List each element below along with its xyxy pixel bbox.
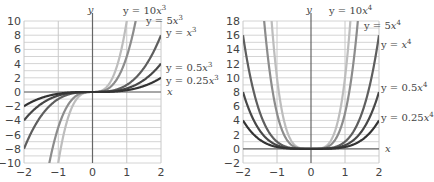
- x-tick-label: −2: [235, 166, 251, 179]
- x-tick-labels: −2−1012: [235, 166, 383, 179]
- chart-canvas: −10−8−6−4−20246810−2−1012xyy = 10x3y = 5…: [0, 0, 434, 182]
- x-tick-label: 1: [342, 166, 349, 179]
- y-tick-label: 4: [14, 58, 21, 71]
- x-axis-label: x: [167, 86, 173, 97]
- series-label: y = x3: [165, 26, 197, 38]
- x-tick-label: 2: [376, 166, 383, 179]
- y-tick-label: 8: [14, 29, 21, 42]
- y-tick-label: 6: [233, 100, 240, 113]
- y-tick-label: 10: [226, 72, 240, 85]
- series-label: y = 0.5x4: [380, 81, 428, 93]
- y-axis-label: y: [87, 4, 94, 15]
- x-tick-label: −1: [269, 166, 285, 179]
- x-axis-label: x: [385, 143, 391, 154]
- series-label: y = 0.5x3: [165, 61, 212, 73]
- x-tick-label: 1: [123, 166, 130, 179]
- series-label: y = 5x4: [363, 19, 401, 31]
- y-axis-label: y: [305, 4, 312, 15]
- y-tick-label: 2: [233, 129, 240, 142]
- series-labels: y = 10x3y = 5x3y = x3y = 0.5x3y = 0.25x3: [122, 4, 219, 86]
- y-tick-labels: −10−8−6−4−20246810: [0, 15, 21, 170]
- x-tick-label: −1: [50, 166, 66, 179]
- quartic-functions-plot: −2024681012141618−2−1012xyy = 10x4y = 5x…: [224, 0, 434, 179]
- y-tick-label: 4: [233, 114, 240, 127]
- y-tick-label: 8: [233, 86, 240, 99]
- cubic-functions-plot: −10−8−6−4−20246810−2−1012xyy = 10x3y = 5…: [0, 0, 219, 182]
- y-tick-label: 16: [226, 29, 240, 42]
- series-label: y = 5x3: [145, 14, 183, 26]
- y-tick-label: 18: [226, 15, 240, 28]
- y-tick-label: 0: [14, 86, 21, 99]
- x-tick-label: 2: [158, 166, 165, 179]
- y-tick-label: 2: [14, 72, 21, 85]
- y-tick-label: −4: [5, 114, 21, 127]
- series-label: y = 0.25x4: [380, 111, 434, 123]
- y-tick-label: −8: [5, 143, 21, 156]
- series-label: y = 0.25x3: [165, 74, 219, 86]
- y-tick-label: 0: [233, 143, 240, 156]
- x-tick-label: 0: [308, 166, 315, 179]
- y-tick-label: 14: [226, 43, 240, 56]
- x-tick-label: −2: [16, 166, 32, 179]
- y-tick-label: −6: [5, 129, 21, 142]
- series-label: y = x4: [380, 38, 412, 50]
- x-tick-labels: −2−1012: [16, 166, 165, 179]
- y-tick-label: 12: [226, 58, 240, 71]
- y-tick-label: 10: [7, 15, 21, 28]
- y-tick-label: −2: [5, 100, 21, 113]
- series-label: y = 10x4: [328, 4, 373, 16]
- y-tick-label: 6: [14, 43, 21, 56]
- x-tick-label: 0: [89, 166, 96, 179]
- y-tick-labels: −2024681012141618: [224, 15, 240, 170]
